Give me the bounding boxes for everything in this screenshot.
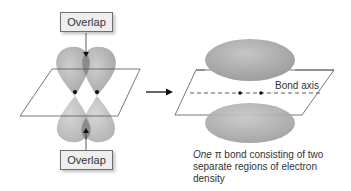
upper-electron-region bbox=[205, 39, 295, 81]
nucleus-right-panel-a bbox=[238, 91, 242, 95]
nucleus-left bbox=[73, 90, 77, 94]
bond-axis-label: Bond axis bbox=[275, 80, 319, 91]
pi-bond-caption: One π bond consisting of two separate re… bbox=[193, 149, 343, 185]
right-arrow-icon bbox=[166, 89, 173, 96]
caption-emphasis: One bbox=[193, 149, 212, 160]
nucleus-right-panel-b bbox=[259, 91, 263, 95]
nucleus-right bbox=[95, 90, 99, 94]
lower-electron-region bbox=[205, 103, 295, 143]
p-orbitals-group bbox=[56, 47, 116, 143]
pi-symbol: π bbox=[215, 149, 222, 160]
caption-text: bond consisting of two separate regions … bbox=[193, 149, 323, 184]
overlap-label-bottom: Overlap bbox=[60, 150, 113, 170]
overlap-label-top: Overlap bbox=[60, 12, 113, 32]
